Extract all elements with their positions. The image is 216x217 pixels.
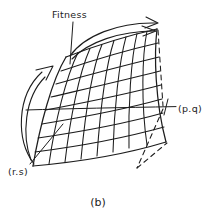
mesh-rows-group <box>33 29 166 166</box>
top-sweep-arrow-group <box>70 17 158 59</box>
rs-leader-group <box>30 124 63 164</box>
dashed-diagonal-right <box>137 109 163 168</box>
figure-caption: (b) <box>90 196 106 209</box>
left-sweep-arrow-group <box>21 66 53 164</box>
axis-rs-label: (r.s) <box>8 166 28 177</box>
mesh-column <box>143 31 147 145</box>
axis-pq-label: (p.q) <box>178 103 202 114</box>
fitness-landscape-diagram: Fitness (p.q) (r.s) (b) <box>0 0 216 217</box>
rs-leader-line <box>30 124 63 164</box>
mesh-columns-group <box>33 29 166 166</box>
mesh-column <box>129 34 137 149</box>
left-sweep-arrow-curve <box>21 72 42 164</box>
dashed-base-bottom <box>137 143 167 168</box>
dashed-vertical-right <box>158 30 163 106</box>
mesh-row-bottom-edge <box>33 142 166 166</box>
figure-container: Fitness (p.q) (r.s) (b) <box>0 0 216 217</box>
fitness-label: Fitness <box>52 9 87 20</box>
